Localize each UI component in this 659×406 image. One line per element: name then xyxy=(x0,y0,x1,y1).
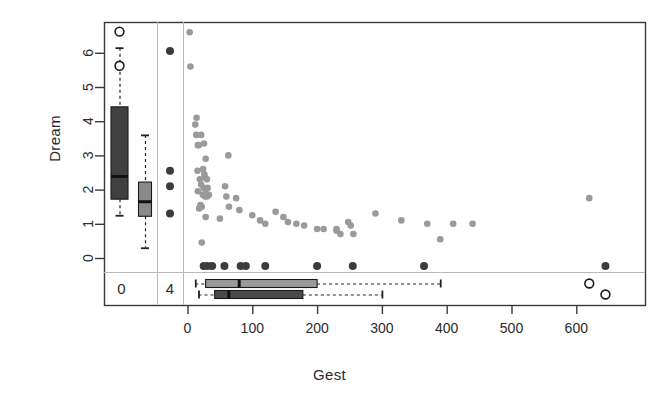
chart-root: Dream Gest 0100200300400500600012345604 xyxy=(0,0,659,406)
data-point xyxy=(202,156,209,163)
x-margin-boxplot-0-box xyxy=(206,280,317,288)
na-row-data-point xyxy=(208,262,216,270)
y-tick-label: 6 xyxy=(80,49,96,57)
data-point xyxy=(469,221,476,228)
na-group-label-x: 0 xyxy=(117,280,125,297)
x-margin-boxplot-0-outlier xyxy=(585,279,594,288)
na-column-data-point xyxy=(166,182,174,190)
x-tick-label: 200 xyxy=(305,320,329,336)
x-margin-boxplot-1-outlier xyxy=(601,290,610,299)
y-margin-boxplot-1-box xyxy=(139,182,152,216)
x-tick-label: 100 xyxy=(241,320,265,336)
data-point xyxy=(233,195,240,202)
na-row-data-point xyxy=(220,262,228,270)
y-tick-label: 0 xyxy=(80,254,96,262)
data-point xyxy=(314,226,321,233)
data-point xyxy=(450,221,457,228)
x-tick-label: 300 xyxy=(370,320,394,336)
data-point xyxy=(198,239,205,246)
data-point xyxy=(217,215,224,222)
y-tick-label: 1 xyxy=(80,220,96,228)
data-point xyxy=(372,210,379,217)
data-point xyxy=(285,219,292,226)
na-column-data-point xyxy=(166,167,174,175)
na-column-data-point xyxy=(166,47,174,55)
na-column-data-point xyxy=(166,210,174,218)
y-tick-label: 4 xyxy=(80,117,96,125)
data-point xyxy=(424,221,431,228)
y-tick-label: 3 xyxy=(80,151,96,159)
data-point xyxy=(204,185,211,192)
na-row-data-point xyxy=(261,262,269,270)
y-margin-boxplot-0-box xyxy=(111,107,128,199)
data-point xyxy=(301,222,308,229)
data-point xyxy=(350,231,357,238)
data-point xyxy=(201,140,208,147)
x-tick-label: 0 xyxy=(184,320,192,336)
data-point xyxy=(320,226,327,233)
data-point xyxy=(193,114,200,121)
data-point xyxy=(206,191,213,198)
data-point xyxy=(222,183,229,190)
x-tick-label: 400 xyxy=(435,320,459,336)
y-margin-boxplot-0-outlier xyxy=(115,61,124,70)
data-point xyxy=(347,222,354,229)
data-point xyxy=(225,152,232,159)
data-point xyxy=(272,209,279,216)
y-tick-label: 5 xyxy=(80,83,96,91)
na-row-data-point xyxy=(349,262,357,270)
x-tick-label: 600 xyxy=(565,320,589,336)
data-point xyxy=(249,212,256,219)
data-point xyxy=(187,63,194,70)
data-point xyxy=(192,121,199,128)
na-row-data-point xyxy=(601,262,609,270)
data-point xyxy=(198,132,205,139)
data-point xyxy=(236,207,243,214)
y-tick-label: 2 xyxy=(80,185,96,193)
data-point xyxy=(196,205,203,212)
y-margin-boxplot-0-outlier xyxy=(115,27,124,36)
na-row-data-point xyxy=(242,262,250,270)
data-point xyxy=(280,214,287,221)
data-point xyxy=(437,236,444,243)
plot-frame xyxy=(105,23,646,306)
na-row-data-point xyxy=(420,262,428,270)
na-group-label-y: 4 xyxy=(166,280,174,297)
data-point xyxy=(262,221,269,228)
x-tick-label: 500 xyxy=(500,320,524,336)
data-point xyxy=(337,231,344,238)
data-point xyxy=(226,203,233,210)
data-point xyxy=(223,193,230,200)
data-point xyxy=(293,221,300,228)
data-point xyxy=(204,176,211,183)
data-point xyxy=(186,29,193,36)
data-point xyxy=(202,214,209,221)
data-point xyxy=(586,195,593,202)
na-row-data-point xyxy=(313,262,321,270)
data-point xyxy=(398,217,405,224)
scatter-plot-canvas: 0100200300400500600012345604 xyxy=(0,0,659,406)
